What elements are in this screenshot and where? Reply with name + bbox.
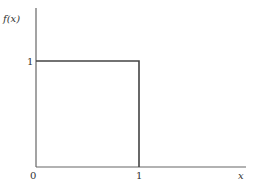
y-axis-label: f(x) bbox=[2, 13, 20, 24]
y-tick-label-1: 1 bbox=[27, 56, 33, 67]
uniform-density-chart: f(x) 1 0 1 x bbox=[0, 0, 256, 185]
x-axis-label: x bbox=[238, 170, 244, 181]
x-tick-label-1: 1 bbox=[136, 170, 142, 181]
x-tick-label-0: 0 bbox=[30, 170, 36, 181]
density-curve bbox=[36, 61, 139, 167]
